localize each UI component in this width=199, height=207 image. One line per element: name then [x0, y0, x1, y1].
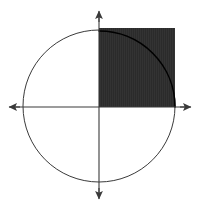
geometry-diagram: [0, 0, 199, 207]
figure-container: Unit circle with inscribed first-quadran…: [0, 0, 199, 207]
